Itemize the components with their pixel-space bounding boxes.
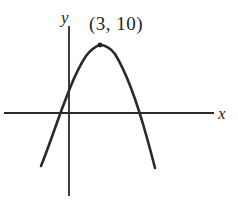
graph-figure: y x (3, 10) — [0, 0, 238, 201]
vertex-coordinate-label: (3, 10) — [89, 14, 143, 33]
y-axis-label: y — [61, 9, 69, 26]
parabola-curve — [41, 45, 155, 168]
x-axis-label: x — [218, 105, 226, 122]
vertex-point-marker — [98, 43, 103, 48]
